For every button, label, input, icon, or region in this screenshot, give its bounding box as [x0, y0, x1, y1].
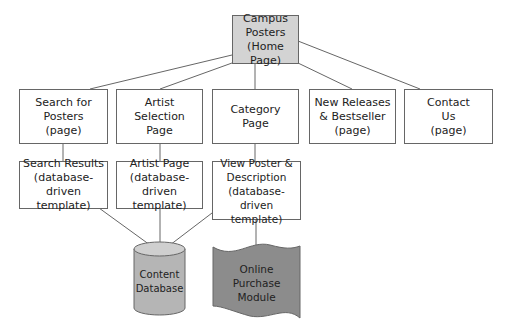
artist-selection-node: Artist Selection Page — [116, 89, 203, 144]
online-purchase-module-label: Online Purchase Module — [213, 258, 300, 308]
artist-page-node: Artist Page (database-driven template) — [116, 161, 203, 209]
search-posters-node: Search for Posters (page) — [19, 89, 108, 144]
category-page-node: Category Page — [212, 89, 299, 144]
content-database-label: Content Database — [134, 262, 185, 302]
home-page-node: Campus Posters (Home Page) — [232, 15, 299, 64]
view-poster-node: View Poster & Description (database-driv… — [212, 161, 301, 220]
new-releases-node: New Releases & Bestseller (page) — [309, 89, 396, 144]
contact-us-node: Contact Us (page) — [404, 89, 493, 144]
search-results-node: Search Results (database-driven template… — [19, 161, 108, 209]
